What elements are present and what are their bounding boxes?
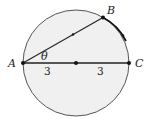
label-c: C <box>135 57 144 70</box>
label-segment-left: 3 <box>44 65 51 77</box>
label-segment-right: 3 <box>97 65 104 77</box>
point-center <box>74 61 78 65</box>
point-c <box>127 61 131 65</box>
point-a <box>21 61 25 65</box>
label-b: B <box>106 4 115 17</box>
midpoint-ab <box>72 33 74 35</box>
label-theta: θ <box>41 50 48 63</box>
circle-diagram: A B C θ 3 3 <box>0 0 149 123</box>
arc-point <box>122 34 124 36</box>
point-b <box>101 16 105 20</box>
label-a: A <box>7 57 16 70</box>
